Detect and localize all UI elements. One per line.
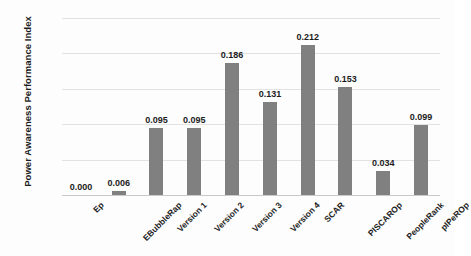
bar-slot: 0.153 (327, 18, 365, 195)
bar-value-label: 0.212 (296, 32, 319, 42)
bar[interactable] (301, 45, 315, 195)
x-axis-tick-label: PISCAROp (365, 200, 403, 238)
bar-value-label: 0.034 (372, 158, 395, 168)
x-axis-tick-label: Ep (91, 200, 106, 215)
bar-value-label: 0.006 (107, 178, 130, 188)
bar[interactable] (338, 87, 352, 195)
bar[interactable] (414, 125, 428, 195)
bar-slot: 0.034 (364, 18, 402, 195)
bar-slot: 0.000 (62, 18, 100, 195)
bar-slot: 0.212 (289, 18, 327, 195)
bar-value-label: 0.095 (183, 115, 206, 125)
x-axis-tick-label: Version 3 (250, 200, 284, 234)
plot-area: 00.050.10.150.20.25 0.0000.0060.0950.095… (62, 18, 440, 195)
x-axis-tick-label: Version 2 (212, 200, 246, 234)
bar-value-label: 0.186 (221, 50, 244, 60)
bar[interactable] (225, 63, 239, 195)
x-axis-tick-label: SCAR (322, 200, 346, 224)
bar-slot: 0.095 (175, 18, 213, 195)
gridline (62, 195, 440, 196)
y-axis-title: Power Awareness Performance Index (22, 7, 33, 197)
x-axis-tick-label: EBubbleRap (140, 200, 183, 243)
bar[interactable] (376, 171, 390, 195)
x-axis-tick-label: PeopleRank (405, 200, 446, 241)
bar[interactable] (187, 128, 201, 195)
x-axis-tick-label: Version 4 (288, 200, 322, 234)
bar-slot: 0.186 (213, 18, 251, 195)
bar-value-label: 0.099 (410, 112, 433, 122)
bar-slot: 0.131 (251, 18, 289, 195)
bar[interactable] (112, 191, 126, 195)
bar-value-label: 0.153 (334, 74, 357, 84)
bar-value-label: 0.095 (145, 115, 168, 125)
bar[interactable] (149, 128, 163, 195)
bar[interactable] (263, 102, 277, 195)
bar-value-label: 0.131 (259, 89, 282, 99)
bar-value-label: 0.000 (70, 182, 93, 192)
bar-slot: 0.095 (138, 18, 176, 195)
bar-slot: 0.006 (100, 18, 138, 195)
bar-slot: 0.099 (402, 18, 440, 195)
